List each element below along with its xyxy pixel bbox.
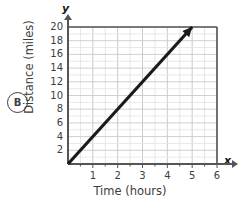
- x-tick-label: 3: [135, 170, 151, 181]
- y-tick-label: 10: [41, 90, 63, 101]
- y-tick-label: 4: [41, 131, 63, 142]
- x-tick-label: 4: [159, 170, 175, 181]
- y-tick-label: 14: [41, 62, 63, 73]
- x-tick-label: 1: [85, 170, 101, 181]
- y-tick-label: 2: [41, 144, 63, 155]
- y-tick-label: 12: [41, 76, 63, 87]
- y-tick-label: 18: [41, 35, 63, 46]
- x-tick-label: 6: [209, 170, 225, 181]
- y-tick-label: 6: [41, 117, 63, 128]
- y-tick-label: 16: [41, 48, 63, 59]
- x-tick-label: 5: [184, 170, 200, 181]
- axis-lines: [64, 14, 238, 168]
- y-tick-label: 8: [41, 103, 63, 114]
- y-tick-label: 20: [41, 21, 63, 32]
- graph-card: B Distance (miles) Time (hours) y x 2468…: [0, 0, 238, 204]
- x-tick-label: 2: [110, 170, 126, 181]
